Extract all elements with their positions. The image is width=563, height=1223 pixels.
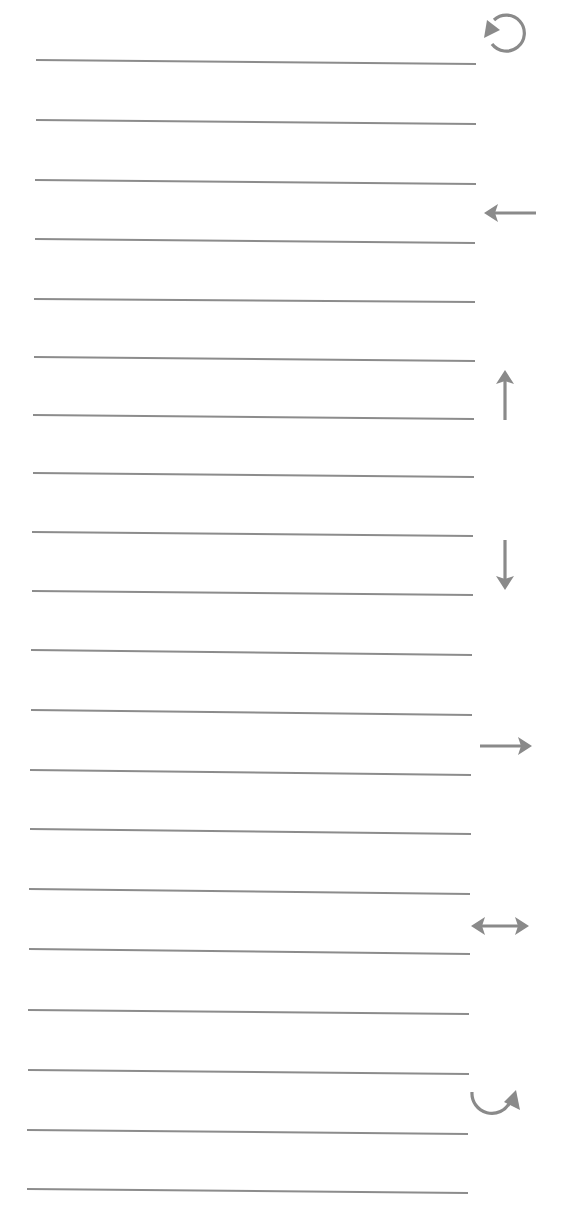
- arrow-left-icon: Arrow left: [482, 200, 538, 226]
- ruled-line: [33, 415, 474, 419]
- ruled-line: [35, 180, 476, 184]
- ruled-line: [28, 1070, 469, 1074]
- ruled-line: [34, 357, 475, 361]
- ruled-line: [32, 591, 473, 595]
- ruled-line: [31, 650, 472, 655]
- arrow-up-icon: Arrow up: [492, 368, 518, 422]
- arrow-left-right-icon: Arrow left-right: [469, 913, 531, 939]
- rotate-counterclockwise-icon: Rotate counterclockwise: [480, 8, 534, 60]
- ruled-line: [29, 889, 470, 894]
- ruled-line: [34, 299, 475, 302]
- ruled-line: [29, 949, 470, 954]
- ruled-line: [31, 710, 472, 715]
- ruled-lines: [0, 0, 563, 1223]
- rotate-clockwise-icon: Rotate clockwise: [468, 1088, 526, 1128]
- ruled-line: [28, 1010, 469, 1014]
- ruled-line: [35, 239, 475, 243]
- ruled-line: [30, 829, 471, 834]
- arrow-down-icon: Arrow down: [492, 538, 518, 592]
- ruled-line: [30, 770, 471, 775]
- ruled-line: [32, 532, 473, 536]
- arrow-right-icon: Arrow right: [478, 733, 534, 759]
- ruled-line: [36, 120, 476, 124]
- ruled-line: [33, 473, 474, 477]
- ruled-line: [36, 60, 476, 64]
- ruled-line: [27, 1189, 468, 1193]
- ruled-page: Rotate counterclockwise Arrow left Arrow…: [0, 0, 563, 1223]
- ruled-line: [27, 1130, 468, 1134]
